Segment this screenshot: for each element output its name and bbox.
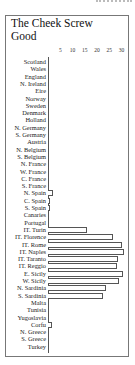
bar	[48, 227, 87, 233]
x-tick-label: 20	[94, 47, 100, 53]
x-tick-label: 30	[119, 47, 125, 53]
bar	[48, 322, 52, 328]
bar	[48, 234, 113, 240]
bar	[48, 190, 53, 196]
bar	[48, 242, 122, 248]
chart-title-line1: The Cheek Screw	[11, 17, 93, 30]
bar	[48, 271, 123, 277]
chart-title: The Cheek Screw Good	[11, 17, 93, 43]
x-tick-label: 5	[59, 47, 62, 53]
cropped-page-edge	[96, 0, 132, 5]
bar	[48, 278, 119, 284]
chart-title-line2: Good	[11, 30, 93, 43]
category-label: Turkey	[28, 343, 46, 351]
bar	[48, 205, 50, 211]
x-tick-label: 10	[70, 47, 76, 53]
bar	[48, 198, 50, 204]
x-axis-ticks: 51015202530	[0, 47, 135, 55]
bar	[48, 256, 118, 262]
x-tick-label: 25	[107, 47, 113, 53]
x-tick-label: 15	[82, 47, 88, 53]
bar	[48, 249, 124, 255]
bar	[48, 263, 117, 269]
bar	[48, 293, 103, 299]
bar-row: Turkey	[0, 343, 135, 351]
bar	[48, 285, 106, 291]
